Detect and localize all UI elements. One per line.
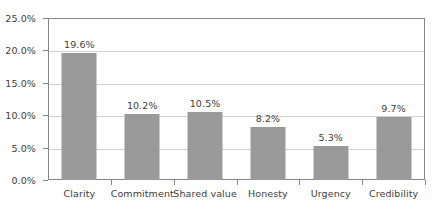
y-axis-tick-label: 20.0% — [5, 45, 36, 56]
bar-value-label: 9.7% — [381, 103, 406, 114]
bar[interactable] — [313, 146, 348, 180]
bar[interactable] — [62, 53, 97, 180]
x-axis-category-label: Urgency — [311, 188, 351, 199]
bar-value-label: 8.2% — [256, 113, 281, 124]
bar-slot: 9.7% — [362, 18, 425, 180]
bars-layer: 19.6%10.2%10.5%8.2%5.3%9.7% — [48, 18, 425, 180]
x-axis-tick-mark — [111, 180, 112, 185]
bar-value-label: 10.2% — [127, 100, 158, 111]
x-axis-tick-mark — [174, 180, 175, 185]
x-axis-category-label: Clarity — [64, 188, 96, 199]
y-axis-tick-label: 10.0% — [5, 110, 36, 121]
bar-slot: 10.5% — [174, 18, 237, 180]
y-axis-tick-label: 25.0% — [5, 13, 36, 24]
bar-chart: 0.0%5.0%10.0%15.0%20.0%25.0% 19.6%10.2%1… — [0, 0, 446, 213]
x-axis-category-label: Credibility — [369, 188, 418, 199]
x-axis-category-label: Commitment — [111, 188, 174, 199]
bar-slot: 8.2% — [237, 18, 300, 180]
y-axis-tick-label: 5.0% — [11, 142, 36, 153]
x-axis: ClarityCommitmentShared valueHonestyUrge… — [48, 180, 425, 213]
y-axis: 0.0%5.0%10.0%15.0%20.0%25.0% — [0, 0, 44, 213]
x-axis-tick-mark — [299, 180, 300, 185]
bar[interactable] — [188, 112, 223, 180]
x-axis-category-label: Honesty — [248, 188, 288, 199]
bar-slot: 19.6% — [48, 18, 111, 180]
bar[interactable] — [376, 117, 411, 180]
bar-value-label: 19.6% — [64, 39, 95, 50]
bar-value-label: 10.5% — [190, 98, 221, 109]
y-axis-tick-label: 15.0% — [5, 77, 36, 88]
bar-slot: 5.3% — [299, 18, 362, 180]
x-axis-tick-mark — [237, 180, 238, 185]
bar[interactable] — [250, 127, 285, 180]
x-axis-category-label: Shared value — [173, 188, 237, 199]
x-axis-tick-mark — [425, 180, 426, 185]
bar-value-label: 5.3% — [318, 132, 343, 143]
x-axis-tick-mark — [362, 180, 363, 185]
y-axis-tick-label: 0.0% — [11, 175, 36, 186]
bar[interactable] — [125, 114, 160, 180]
bar-slot: 10.2% — [111, 18, 174, 180]
